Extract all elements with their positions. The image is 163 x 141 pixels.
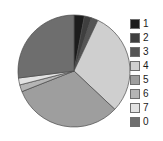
legend-item[interactable]: 5 (130, 73, 161, 87)
legend-swatch-icon (130, 103, 140, 113)
chart-legend: 12345670 (130, 17, 161, 129)
legend-item[interactable]: 1 (130, 17, 161, 31)
legend-item-label: 1 (143, 19, 149, 29)
pie-plot-area (17, 14, 131, 128)
legend-swatch-icon (130, 47, 140, 57)
pie-slice[interactable] (18, 15, 74, 78)
pie-chart-figure: 12345670 (0, 0, 163, 141)
pie-slice-group (18, 15, 130, 127)
legend-item[interactable]: 6 (130, 87, 161, 101)
legend-swatch-icon (130, 19, 140, 29)
legend-swatch-icon (130, 33, 140, 43)
legend-item-label: 3 (143, 47, 149, 57)
legend-item-label: 0 (143, 117, 149, 127)
legend-swatch-icon (130, 89, 140, 99)
pie-svg (17, 14, 131, 128)
legend-item-label: 7 (143, 103, 149, 113)
legend-item[interactable]: 2 (130, 31, 161, 45)
legend-item[interactable]: 3 (130, 45, 161, 59)
legend-swatch-icon (130, 61, 140, 71)
legend-item[interactable]: 0 (130, 115, 161, 129)
legend-item-label: 5 (143, 75, 149, 85)
legend-item[interactable]: 7 (130, 101, 161, 115)
legend-item[interactable]: 4 (130, 59, 161, 73)
legend-swatch-icon (130, 117, 140, 127)
legend-item-label: 6 (143, 89, 149, 99)
legend-item-label: 2 (143, 33, 149, 43)
legend-item-label: 4 (143, 61, 149, 71)
legend-swatch-icon (130, 75, 140, 85)
